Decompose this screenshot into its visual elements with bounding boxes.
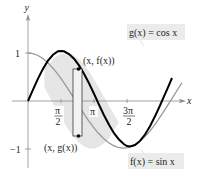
sin-label-text: f(x) = sin x [130,156,175,168]
point-x-fx [77,67,81,71]
svg-text:π: π [55,105,60,116]
x-tick-label-pi-over-2: π 2 [53,105,64,128]
x-tick-label-3pi-over-2: 3π 2 [122,105,137,128]
y-axis-label: y [24,2,30,13]
y-tick-label-1: 1 [15,48,20,59]
label-x-gx: (x, g(x)) [44,142,77,154]
cos-label-text: g(x) = cos x [129,27,177,39]
svg-text:π: π [90,106,95,117]
cos-label-callout: g(x) = cos x [127,24,185,46]
y-tick-label-neg1: −1 [10,144,21,155]
point-x-gx [77,134,81,138]
svg-text:3π: 3π [123,105,133,116]
area-between-curves-diagram: x y 1 −1 π 2 π 3π 2 (x, f(x)) (x, g(x)) [0,0,199,182]
svg-text:2: 2 [56,116,61,127]
label-x-fx: (x, f(x)) [83,55,115,67]
sin-label-callout: f(x) = sin x [128,149,184,169]
x-axis-label: x [186,95,192,106]
svg-text:2: 2 [127,116,132,127]
representative-rectangle [73,69,82,136]
x-tick-label-pi: π [89,106,98,117]
graph-canvas: x y 1 −1 π 2 π 3π 2 (x, f(x)) (x, g(x)) [0,0,199,182]
